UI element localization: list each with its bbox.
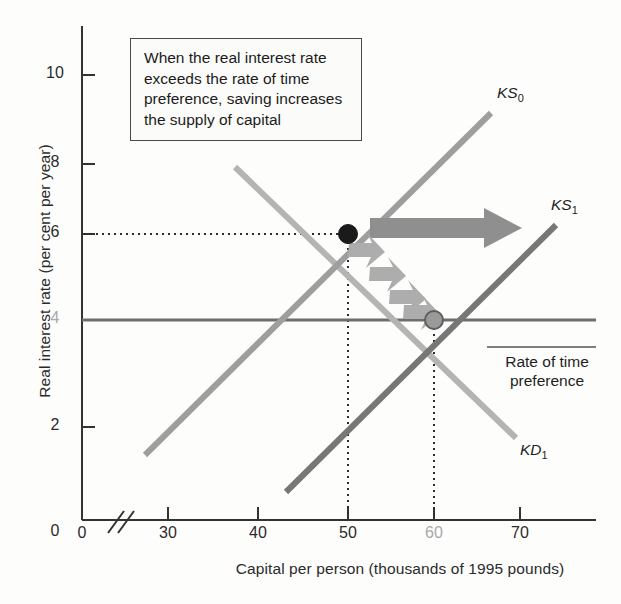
rate-label-line-2: preference	[487, 371, 607, 390]
marker-new-equilibrium	[425, 311, 443, 329]
curve-label-kd1-sub: 1	[542, 449, 548, 461]
y-tick-marks	[82, 75, 95, 427]
curve-label-ks1-sub: 1	[572, 204, 578, 216]
y-tick-label-10: 10	[36, 64, 74, 82]
curve-label-ks0-sub: 0	[518, 92, 524, 104]
x-tick-label-30: 30	[148, 524, 188, 542]
curve-label-ks0: KS0	[497, 84, 524, 104]
curve-label-kd1: KD1	[520, 441, 548, 461]
x-tick-label-60: 60	[414, 524, 454, 542]
curve-label-ks1: KS1	[551, 196, 578, 216]
curve-label-ks0-text: KS	[497, 84, 518, 101]
y-axis-title: Real interest rate (per cent per year)	[36, 106, 54, 436]
callout-line-4: the supply of capital	[144, 110, 350, 131]
curve-label-kd1-text: KD	[520, 441, 542, 458]
rate-of-time-preference-label: Rate of time preference	[487, 352, 607, 391]
callout-box: When the real interest rate exceeds the …	[130, 38, 362, 141]
callout-line-2: exceeds the rate of time	[144, 69, 350, 90]
x-tick-marks	[168, 507, 520, 520]
curve-ks0	[145, 113, 491, 455]
x-axis-title: Capital per person (thousands of 1995 po…	[190, 560, 610, 578]
x-tick-label-70: 70	[500, 524, 540, 542]
rate-label-line-1: Rate of time	[487, 352, 607, 371]
x-tick-label-0: 0	[62, 524, 102, 542]
marker-initial-equilibrium	[339, 225, 358, 244]
callout-line-3: preference, saving increases	[144, 89, 350, 110]
economics-chart-figure: When the real interest rate exceeds the …	[0, 0, 621, 604]
callout-line-1: When the real interest rate	[144, 48, 350, 69]
x-tick-label-40: 40	[238, 524, 278, 542]
x-axis-break-icon	[108, 511, 134, 533]
curve-label-ks1-text: KS	[551, 196, 572, 213]
x-tick-label-50: 50	[328, 524, 368, 542]
